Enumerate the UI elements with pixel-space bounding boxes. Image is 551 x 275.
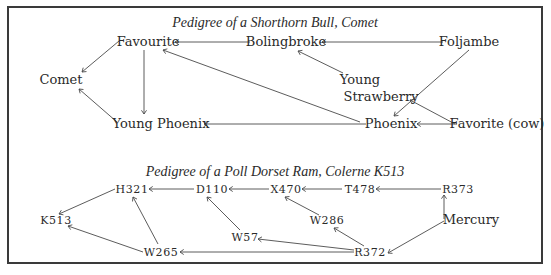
- node-young-strawberry-2: Strawberry: [343, 89, 419, 104]
- edge-foljambe-to-phoenix: [394, 50, 469, 116]
- node-favorite-cow: Favorite (cow): [450, 116, 545, 131]
- nodes: FavouriteBolingbrokeFoljambeCometYoungSt…: [39, 34, 544, 131]
- edge-phoenix-to-favourite: [163, 50, 360, 122]
- nodes: H321D110X470T478R373K513W286MercuryW57W2…: [40, 183, 500, 259]
- edge-w265-to-k513: [68, 226, 143, 252]
- edge-r372-to-w57: [258, 239, 354, 250]
- edge-young-phoenix-to-comet: [79, 89, 117, 122]
- edge-favourite-to-comet: [82, 41, 119, 72]
- node-phoenix: Phoenix: [365, 116, 418, 131]
- edge-h321-to-k513: [59, 189, 115, 214]
- edge-w57-to-d110: [207, 197, 240, 230]
- colerne-pedigree-diagram: Pedigree of a Poll Dorset Ram, Colerne K…: [40, 164, 500, 259]
- edge-w286-to-x470: [285, 197, 319, 215]
- node-x470: X470: [270, 183, 301, 196]
- node-young-phoenix: Young Phoenix: [112, 116, 211, 131]
- node-w286: W286: [310, 214, 345, 227]
- node-k513: K513: [40, 214, 72, 227]
- comet-pedigree-diagram: Pedigree of a Shorthorn Bull, Comet Favo…: [39, 15, 544, 131]
- pedigree-canvas: Pedigree of a Shorthorn Bull, Comet Favo…: [0, 0, 551, 275]
- node-d110: D110: [196, 183, 228, 196]
- node-r372: R372: [354, 246, 386, 259]
- node-t478: T478: [345, 183, 376, 196]
- node-comet: Comet: [39, 72, 83, 87]
- edges: [79, 39, 469, 126]
- node-foljambe: Foljambe: [439, 34, 500, 49]
- edge-young-strawberry-to-bolingbroke: [298, 51, 343, 73]
- node-young-strawberry-1: Young: [339, 72, 380, 87]
- edge-r372-to-w286: [334, 228, 364, 246]
- edges: [59, 186, 447, 254]
- node-bolingbroke: Bolingbroke: [246, 34, 327, 49]
- node-h321: H321: [116, 183, 149, 196]
- edge-mercury-to-r372: [388, 221, 444, 253]
- node-w265: W265: [144, 246, 179, 259]
- edge-w265-to-h321: [133, 197, 158, 244]
- diagram-title: Pedigree of a Shorthorn Bull, Comet: [171, 15, 379, 30]
- node-r373: R373: [442, 183, 474, 196]
- node-mercury: Mercury: [443, 212, 500, 227]
- diagram-title: Pedigree of a Poll Dorset Ram, Colerne K…: [145, 164, 404, 179]
- node-favourite: Favourite: [117, 34, 180, 49]
- node-w57: W57: [231, 231, 258, 244]
